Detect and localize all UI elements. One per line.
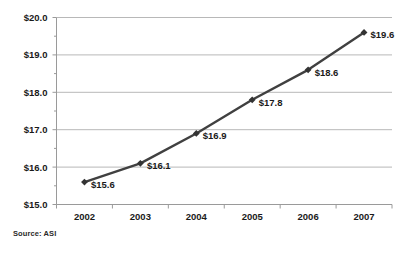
x-axis-tick-label: 2004 — [186, 211, 208, 222]
y-axis-tick-label: $15.0 — [24, 199, 48, 210]
data-point-label: $15.6 — [91, 179, 115, 190]
y-axis-tick-label: $18.0 — [24, 87, 48, 98]
x-axis-tick-label: 2005 — [242, 211, 264, 222]
x-axis-tick-label: 2002 — [74, 211, 95, 222]
x-axis-tick-label: 2006 — [298, 211, 319, 222]
data-point-label: $16.1 — [147, 160, 171, 171]
source-note: Source: ASI — [13, 229, 56, 238]
data-point-label: $16.9 — [203, 130, 227, 141]
chart-container: $15.0$16.0$17.0$18.0$19.0$20.0 200220032… — [0, 0, 406, 254]
y-axis-tick-label: $16.0 — [24, 162, 48, 173]
y-axis-tick-label: $17.0 — [24, 124, 48, 135]
line-chart: $15.0$16.0$17.0$18.0$19.0$20.0 200220032… — [0, 0, 406, 254]
x-axis-tick-label: 2003 — [130, 211, 151, 222]
y-axis-tick-label: $19.0 — [24, 49, 48, 60]
data-point-label: $19.6 — [371, 29, 395, 40]
data-point-label: $18.6 — [315, 67, 339, 78]
data-point-label: $17.8 — [259, 97, 283, 108]
x-axis-tick-label: 2007 — [353, 211, 374, 222]
y-axis-tick-label: $20.0 — [24, 12, 48, 23]
